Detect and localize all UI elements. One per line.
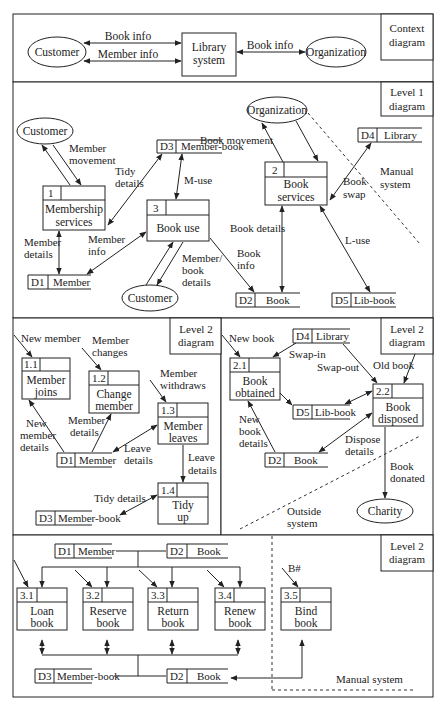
- label: Member-book: [57, 670, 120, 682]
- process-3-5-bind-book: 3.5 Bind book: [281, 588, 331, 630]
- label: Swap-in: [289, 348, 326, 360]
- label: D3: [38, 670, 52, 682]
- label: New member: [21, 332, 81, 344]
- l2a-datastore-d1-member: D1 Member: [57, 453, 117, 467]
- label: diagram: [389, 553, 425, 565]
- label: Book details: [230, 222, 285, 234]
- label: D2: [239, 294, 252, 306]
- label: Member: [160, 367, 198, 379]
- process-2-2-book-disposed: 2.2 Book disposed: [373, 384, 423, 426]
- process-1-3-member-leaves: 1.3 Member leaves: [158, 403, 208, 444]
- process-2-1-book-obtained: 2.1 Book obtained: [230, 358, 280, 400]
- label: New book: [229, 332, 275, 344]
- label: swap: [343, 188, 366, 200]
- label: diagram: [178, 336, 214, 348]
- label: services: [55, 216, 93, 228]
- label: Library: [384, 129, 417, 141]
- label: Member: [78, 545, 116, 557]
- label: Member: [53, 276, 91, 288]
- label: Membership: [45, 203, 103, 216]
- label: details: [70, 426, 99, 438]
- process-1-4-tidy-up: 1.4 Tidy up: [158, 483, 208, 524]
- label: D2: [170, 545, 183, 557]
- label: 1: [48, 187, 54, 199]
- label: details: [115, 177, 144, 189]
- label: Book: [266, 294, 290, 306]
- label: disposed: [378, 413, 419, 426]
- label: D1: [60, 454, 73, 466]
- label: 1.3: [161, 404, 175, 416]
- l2a-datastore-d3-member-book: D3 Member-book: [36, 511, 121, 525]
- label: Customer: [35, 46, 80, 58]
- datastore-d4-library: D4 Library: [358, 128, 422, 142]
- label: 1.4: [161, 484, 175, 496]
- label: system: [380, 178, 411, 190]
- process-3-3-return-book: 3.3 Return book: [148, 588, 198, 630]
- label: details: [182, 276, 211, 288]
- label: 3.1: [20, 589, 34, 601]
- label: Member: [68, 414, 106, 426]
- process-3-2-reserve-book: 3.2 Reserve book: [83, 588, 133, 630]
- label: D3: [160, 140, 174, 152]
- label: diagram: [389, 336, 425, 348]
- label: joins: [34, 386, 58, 399]
- label: 1.1: [24, 358, 38, 370]
- process-2-book-services: 2 Book services: [265, 162, 327, 205]
- label: Book: [197, 670, 221, 682]
- label: details: [239, 437, 268, 449]
- label: Outside: [287, 505, 321, 517]
- label: Member: [164, 420, 203, 432]
- l2c-datastore-d3-member-book: D3 Member-book: [35, 669, 120, 683]
- label: Book use: [156, 222, 199, 234]
- process-3-4-renew-book: 3.4 Renew book: [215, 588, 265, 630]
- label: Lib-book: [315, 406, 356, 418]
- label: Book: [343, 175, 367, 187]
- label: Book: [284, 178, 309, 190]
- label: Lib-book: [354, 294, 395, 306]
- label: system: [193, 54, 225, 67]
- dfd-canvas: Context diagram Customer Library system …: [0, 0, 445, 708]
- label: 2.2: [376, 385, 390, 397]
- label: details: [24, 248, 53, 260]
- label: book: [239, 425, 262, 437]
- label: member: [95, 400, 133, 412]
- label: Level 2: [179, 323, 212, 335]
- process-1-1-member-joins: 1.1 Member joins: [22, 358, 70, 399]
- label: Book: [197, 545, 221, 557]
- label: Book: [243, 375, 268, 387]
- label: book: [182, 264, 205, 276]
- label: M-use: [184, 174, 212, 186]
- label: New: [239, 413, 260, 425]
- label: Reserve: [89, 605, 126, 617]
- label: D5: [335, 294, 349, 306]
- label: Leave: [188, 451, 215, 463]
- label: changes: [92, 346, 127, 358]
- label: D5: [296, 406, 310, 418]
- label: Level 2: [390, 540, 423, 552]
- label: 2.1: [233, 359, 247, 371]
- l2c-datastore-d1-member: D1 Member: [55, 544, 116, 558]
- label: D2: [170, 670, 183, 682]
- label: diagram: [389, 100, 425, 112]
- label: 3.5: [284, 589, 298, 601]
- label: book: [31, 617, 54, 629]
- label: 2: [272, 164, 278, 176]
- label: Member: [24, 236, 62, 248]
- label: system: [287, 517, 318, 529]
- process-1-2-change-member: 1.2 Change member: [89, 371, 139, 413]
- label: obtained: [235, 387, 275, 399]
- label: Organization: [306, 46, 366, 59]
- label: Organization: [247, 104, 307, 117]
- label: Library: [192, 41, 227, 54]
- label: info: [88, 245, 106, 257]
- label: Book movement: [200, 134, 273, 146]
- label: Book: [294, 454, 318, 466]
- label: Customer: [128, 292, 173, 304]
- l2c-datastore-d2-book-top: D2 Book: [167, 544, 228, 558]
- label: 3.4: [218, 589, 232, 601]
- label: Member info: [98, 48, 159, 60]
- label: details: [188, 464, 217, 476]
- label: member: [20, 429, 56, 441]
- label: donated: [390, 472, 425, 484]
- label: Renew: [224, 605, 257, 617]
